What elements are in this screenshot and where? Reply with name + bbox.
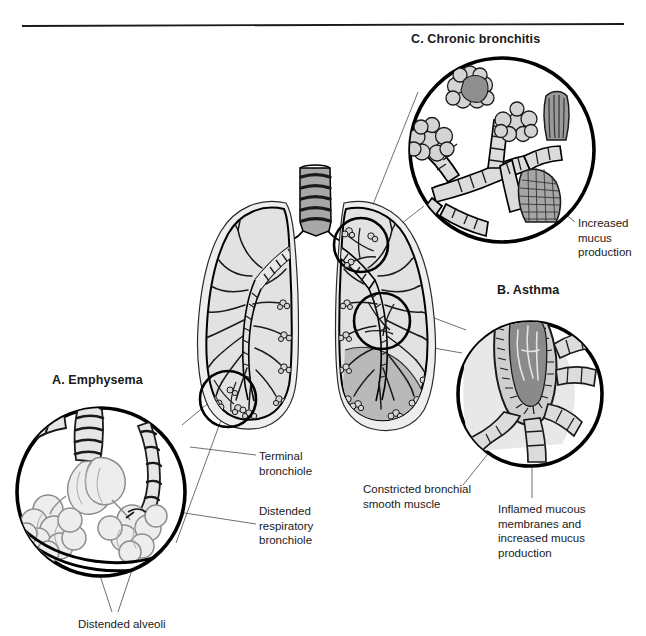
magnifier-chronic-bronchitis bbox=[407, 58, 594, 242]
copd-figure: C. Chronic bronchitis B. Asthma A. Emphy… bbox=[0, 0, 646, 636]
mucus-plug-upper bbox=[544, 92, 569, 141]
callout-terminal-bronchiole: Terminal bronchiole bbox=[259, 449, 312, 478]
terminal-bronchiole bbox=[75, 405, 103, 462]
callout-distended-alveoli: Distended alveoli bbox=[78, 617, 166, 632]
lung-right bbox=[332, 199, 445, 431]
header-divider bbox=[22, 24, 624, 26]
panel-title-chronic-bronchitis: C. Chronic bronchitis bbox=[411, 31, 540, 47]
callout-constricted-bronchial-smooth-muscle: Constricted bronchial smooth muscle bbox=[363, 482, 471, 511]
callout-distended-respiratory-bronchiole: Distended respiratory bronchiole bbox=[259, 504, 313, 548]
lung-left bbox=[183, 199, 298, 429]
callout-inflamed-mucous-membranes: Inflamed mucous membranes and increased … bbox=[498, 502, 586, 561]
panel-title-asthma: B. Asthma bbox=[497, 282, 559, 298]
magnifier-asthma bbox=[454, 320, 602, 466]
magnifier-emphysema bbox=[15, 405, 185, 576]
panel-title-emphysema: A. Emphysema bbox=[52, 372, 143, 388]
callout-increased-mucus-production: Increased mucus production bbox=[578, 216, 632, 260]
